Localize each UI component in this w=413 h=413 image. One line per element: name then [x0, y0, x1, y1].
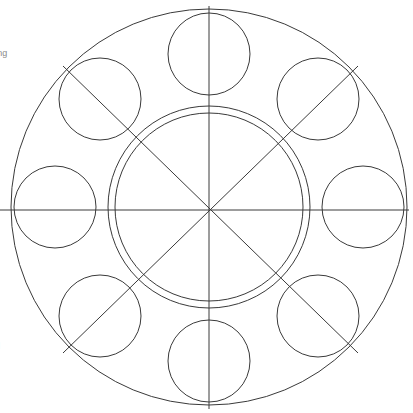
margin-text-fragment-1: n — [0, 26, 20, 37]
margin-text-fragment-3: e — [0, 79, 15, 90]
figure-background — [0, 0, 413, 413]
rosette-figure — [0, 0, 413, 413]
margin-text-fragment-2: ning — [0, 48, 20, 59]
margin-text-fragment-4: d — [0, 341, 15, 352]
